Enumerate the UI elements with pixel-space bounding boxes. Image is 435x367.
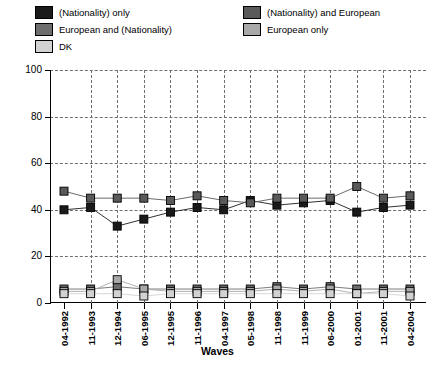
x-axis-tick-label: 04-1992 (59, 311, 70, 346)
data-point-marker (379, 203, 387, 211)
data-point-marker (166, 208, 174, 216)
x-axis-tick (383, 303, 384, 309)
data-point-marker (379, 194, 387, 202)
data-point-marker (406, 201, 414, 209)
x-axis-tick (277, 303, 278, 309)
legend-swatch-icon (243, 23, 261, 36)
x-axis-tick-label: 04-1997 (219, 311, 230, 346)
data-point-marker (379, 290, 387, 298)
data-point-marker (353, 183, 361, 191)
x-axis-tick (170, 303, 171, 309)
x-axis-tick (64, 303, 65, 309)
x-axis-tick (224, 303, 225, 309)
data-point-marker (246, 290, 254, 298)
data-point-marker (113, 276, 121, 284)
legend-item-label: European and (Nationality) (59, 24, 172, 35)
data-point-marker (140, 194, 148, 202)
data-point-marker (166, 290, 174, 298)
x-axis-tick (117, 303, 118, 309)
x-axis-tick (91, 303, 92, 309)
x-axis-tick (250, 303, 251, 309)
legend-swatch-icon (243, 6, 261, 19)
data-point-marker (60, 290, 68, 298)
data-point-marker (140, 292, 148, 300)
data-point-marker (220, 290, 228, 298)
data-point-marker (113, 290, 121, 298)
data-point-marker (87, 194, 95, 202)
x-axis-tick-label: 12-1994 (112, 311, 123, 346)
data-point-marker (246, 199, 254, 207)
data-point-marker (60, 206, 68, 214)
data-point-marker (326, 290, 334, 298)
data-point-marker (300, 194, 308, 202)
y-axis-tick-label: 40 (8, 205, 42, 215)
x-axis-tick-label: 11-1996 (192, 311, 203, 345)
x-axis-tick-label: 06-2000 (325, 311, 336, 346)
series-layer (50, 70, 426, 303)
legend-swatch-icon (35, 23, 53, 36)
data-point-marker (87, 290, 95, 298)
legend-item-label: (Nationality) and European (267, 7, 380, 18)
x-axis-tick-label: 11-1999 (299, 311, 310, 345)
legend-item-dk: DK (35, 40, 72, 53)
y-axis-tick-label: 60 (8, 158, 42, 168)
data-point-marker (140, 215, 148, 223)
data-point-marker (273, 194, 281, 202)
plot-area: 020406080100 04-199211-199312-199406-199… (50, 70, 426, 303)
x-axis-tick-label: 05-1998 (245, 311, 256, 346)
data-point-marker (220, 206, 228, 214)
x-axis-tick-label: 04-2004 (405, 311, 416, 346)
legend-item-label: DK (59, 41, 72, 52)
data-point-marker (273, 290, 281, 298)
x-axis-tick-label: 12-1995 (165, 311, 176, 346)
x-axis-tick-label: 01-2001 (352, 311, 363, 346)
y-axis-tick-label: 100 (8, 65, 42, 75)
data-point-marker (166, 196, 174, 204)
x-axis-tick (197, 303, 198, 309)
data-point-marker (113, 222, 121, 230)
data-point-marker (60, 187, 68, 195)
y-axis-tick-label: 0 (8, 298, 42, 308)
x-axis-title: Waves (0, 345, 435, 357)
y-axis-tick (45, 303, 51, 304)
y-axis-tick-label: 80 (8, 112, 42, 122)
x-axis-tick (410, 303, 411, 309)
data-point-marker (300, 290, 308, 298)
data-point-marker (193, 192, 201, 200)
x-axis-tick-label: 11-1993 (86, 311, 97, 345)
data-point-marker (353, 290, 361, 298)
legend-item-european-only: European only (243, 23, 328, 36)
legend-item-label: (Nationality) only (59, 7, 130, 18)
data-point-marker (193, 290, 201, 298)
data-point-marker (406, 292, 414, 300)
legend-item-label: European only (267, 24, 328, 35)
x-axis-tick (304, 303, 305, 309)
data-point-marker (193, 203, 201, 211)
data-point-marker (87, 203, 95, 211)
data-point-marker (326, 194, 334, 202)
legend-item-european-and-nationality: European and (Nationality) (35, 23, 172, 36)
legend-item-nationality-and-european: (Nationality) and European (243, 6, 380, 19)
data-point-marker (113, 194, 121, 202)
x-axis-tick (357, 303, 358, 309)
data-point-marker (353, 208, 361, 216)
x-axis-tick-label: 06-1995 (139, 311, 150, 346)
x-axis-tick (144, 303, 145, 309)
data-point-marker (406, 192, 414, 200)
legend-swatch-icon (35, 40, 53, 53)
chart-root: (Nationality) only European and (Nationa… (0, 0, 435, 367)
x-axis-tick (330, 303, 331, 309)
legend-item-nationality-only: (Nationality) only (35, 6, 130, 19)
chart-legend: (Nationality) only European and (Nationa… (0, 6, 435, 58)
x-axis-tick-label: 11-1998 (272, 311, 283, 345)
data-point-marker (220, 196, 228, 204)
x-axis-tick-label: 11-2001 (378, 311, 389, 345)
legend-swatch-icon (35, 6, 53, 19)
y-axis-tick-label: 20 (8, 251, 42, 261)
